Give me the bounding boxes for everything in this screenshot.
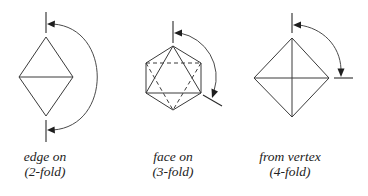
caption-from-vertex: from vertex (4-fold)	[235, 149, 345, 179]
fold-label: (2-fold)	[0, 164, 100, 179]
arrowhead-icon	[47, 127, 55, 134]
diagram-face-on	[146, 21, 222, 110]
rotation-arc	[180, 33, 216, 91]
view-label: edge on	[0, 149, 100, 164]
caption-edge-on: edge on (2-fold)	[0, 149, 100, 179]
caption-face-on: face on (3-fold)	[118, 149, 228, 179]
octahedron-vertex-view	[254, 38, 329, 117]
octahedron-edge-view	[19, 37, 73, 116]
octahedron-face-view	[146, 46, 201, 110]
arrowhead-icon	[47, 21, 55, 28]
fold-label: (3-fold)	[118, 164, 228, 179]
arrowhead-icon	[338, 69, 345, 78]
view-label: face on	[118, 149, 228, 164]
front-face-triangle	[146, 46, 201, 93]
view-label: from vertex	[235, 149, 345, 164]
arrowhead-icon	[174, 30, 182, 37]
fold-label: (4-fold)	[235, 164, 345, 179]
diagram-from-vertex	[254, 13, 353, 117]
diagram-edge-on	[19, 12, 97, 142]
arrowhead-icon	[293, 22, 301, 29]
rotation-arc	[299, 25, 341, 69]
